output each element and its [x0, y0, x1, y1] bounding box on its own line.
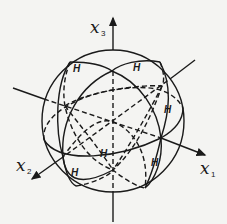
x2-axis-back [174, 60, 195, 76]
x1-label: x 1 [200, 158, 216, 179]
svg-text:3: 3 [101, 29, 106, 38]
region-label-h: H [133, 62, 141, 73]
svg-text:x: x [200, 158, 210, 178]
x1-axis-back [13, 88, 44, 99]
x1-axis-front [161, 138, 205, 155]
region-label-h: H [71, 167, 79, 178]
svg-text:x: x [16, 155, 26, 175]
x2-axis-inner [63, 76, 174, 157]
region-label-h: H [151, 157, 159, 168]
svg-text:x: x [90, 17, 100, 37]
region-label-h: H [73, 63, 81, 74]
x3-label: x 3 [90, 17, 106, 38]
x2-axis-front [32, 157, 63, 179]
sphere-diagram: x 3 x 2 x 1 H H H H H H [0, 0, 227, 224]
svg-text:1: 1 [211, 170, 216, 179]
svg-text:2: 2 [27, 167, 32, 176]
x1-axis-inner [44, 99, 161, 138]
region-label-h: H [164, 104, 172, 115]
x2-label: x 2 [16, 155, 32, 176]
great-circle-c-front [70, 61, 160, 71]
region-label-h: H [100, 148, 108, 159]
